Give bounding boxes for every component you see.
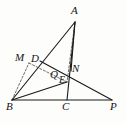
point-label-p: P (110, 101, 117, 112)
point-label-b: B (6, 101, 13, 112)
segment-layer (12, 22, 112, 100)
point-label-d: D (31, 53, 39, 64)
geometry-figure: AMDQENBCP (0, 0, 126, 123)
point-label-q: Q (50, 69, 58, 80)
point-label-a: A (71, 5, 78, 16)
point-label-m: M (15, 52, 24, 63)
point-label-n: N (72, 63, 79, 74)
point-label-e: E (59, 75, 65, 85)
point-label-c: C (62, 101, 69, 112)
